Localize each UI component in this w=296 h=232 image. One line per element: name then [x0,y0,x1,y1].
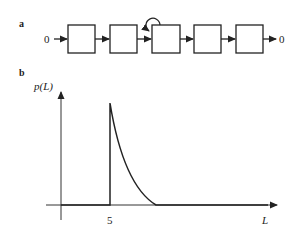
x-axis-label: L [261,214,268,226]
x-tick-5-label: 5 [107,214,113,226]
panel-b-label: b [19,67,25,78]
state-box-2 [110,25,137,53]
distribution-curve [61,103,268,205]
panel-a-label: a [19,18,24,29]
state-box-3 [152,25,180,53]
output-zero-label: 0 [279,33,285,45]
panel-b: b p(L) 5 L [19,67,277,226]
panel-a: a 0 0 [19,18,285,53]
input-zero-label: 0 [44,33,50,45]
state-box-5 [236,25,263,53]
y-axis-label: p(L) [33,80,53,93]
state-box-1 [68,25,95,53]
figure: a 0 0 b p(L) 5 L [0,0,296,232]
state-box-4 [194,25,221,53]
